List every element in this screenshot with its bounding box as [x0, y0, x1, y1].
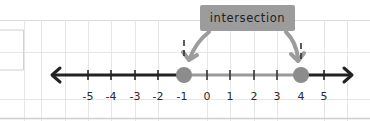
point-negative-one — [176, 67, 192, 83]
paper-edge — [0, 30, 24, 70]
tick-label: 0 — [204, 90, 211, 103]
tick-label: 2 — [251, 90, 258, 103]
tick-label: 3 — [274, 90, 281, 103]
left-pointer-arrow — [190, 32, 209, 58]
diagram-canvas: intersection — [0, 0, 370, 121]
tick-label: -4 — [106, 90, 117, 103]
intersection-callout: intersection — [200, 5, 295, 31]
tick-label: 1 — [227, 90, 234, 103]
tick-label: -5 — [83, 90, 94, 103]
tick-label: -2 — [153, 90, 164, 103]
callout-label: intersection — [210, 11, 285, 25]
number-line-diagram: intersection — [0, 0, 370, 121]
tick-label: -1 — [177, 90, 188, 103]
point-four — [293, 67, 309, 83]
tick-label: 4 — [298, 90, 305, 103]
callout-arrows — [183, 32, 304, 61]
tick-label: 5 — [321, 90, 328, 103]
tick-labels: -5 -4 -3 -2 -1 0 1 2 3 4 5 — [83, 90, 328, 103]
point-guides — [184, 40, 301, 59]
tick-label: -3 — [130, 90, 141, 103]
